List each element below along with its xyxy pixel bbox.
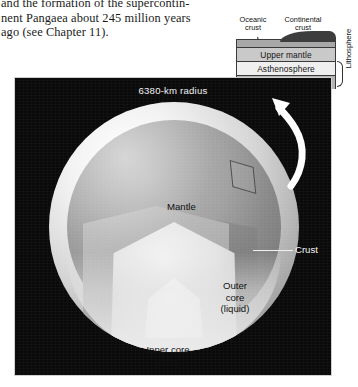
lithosphere-label: Lithosphere (344, 21, 353, 77)
callout-arrow-icon (245, 78, 317, 188)
mantle-label: Mantle (167, 201, 196, 213)
earth-interior-figure: 6380-km radius Mantle Outer core (liquid… (14, 77, 332, 376)
cutaway-globe (49, 102, 299, 374)
crust-label: Crust (295, 244, 318, 255)
crust-leader-line (253, 250, 293, 251)
inner-core-label: Inner core (solid) (123, 344, 213, 367)
body-line-1: and the formation of the supercontin- (1, 0, 151, 11)
body-paragraph: and the formation of the supercontin- ne… (1, 0, 151, 40)
lithosphere-bracket-icon (337, 61, 343, 87)
body-line-2: nent Pangaea about 245 million years (1, 11, 151, 26)
asthenosphere-band: Asthenosphere (236, 61, 336, 75)
upper-mantle-label: Upper mantle (260, 50, 311, 60)
lithosphere-bracket-group: Lithosphere (337, 61, 358, 85)
outer-core-label: Outer core (liquid) (203, 280, 267, 315)
crust-band (236, 39, 336, 47)
asthenosphere-label: Asthenosphere (257, 64, 315, 74)
upper-mantle-band: Upper mantle (236, 47, 336, 61)
oceanic-crust-label: Oceanic crust (235, 16, 271, 32)
body-line-3: ago (see Chapter 11). (1, 25, 151, 40)
continental-crust-label: Continental crust (275, 16, 331, 32)
